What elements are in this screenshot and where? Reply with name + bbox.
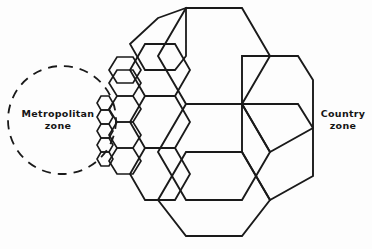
hex-group-small <box>109 57 141 174</box>
hex-medium-cell <box>130 96 190 148</box>
hex-group-large <box>158 8 313 236</box>
hex-group-medium <box>130 8 190 200</box>
diagram-canvas: Metropolitan zone Country zone <box>0 0 372 249</box>
hex-large-cell <box>158 152 270 236</box>
hex-small-cell <box>109 148 141 174</box>
hex-tiny-cell <box>97 138 113 152</box>
hex-large-cell <box>242 104 313 200</box>
hex-small-cell <box>109 122 141 148</box>
hex-small-cell <box>109 96 141 122</box>
metropolitan-zone-label: Metropolitan zone <box>12 108 104 132</box>
hex-medium-cell <box>130 8 186 70</box>
country-zone-label: Country zone <box>316 108 370 132</box>
